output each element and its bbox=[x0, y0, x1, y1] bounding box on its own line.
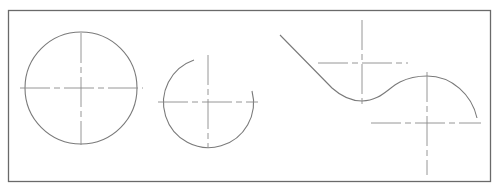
reverse-curve-group bbox=[280, 20, 481, 175]
open-arc bbox=[164, 60, 254, 148]
cad-drawing bbox=[0, 0, 499, 193]
full-circle-group bbox=[20, 32, 143, 145]
drawing-svg bbox=[0, 0, 499, 193]
open-arc-group bbox=[158, 55, 258, 148]
tangent-line-and-curves bbox=[280, 35, 477, 118]
